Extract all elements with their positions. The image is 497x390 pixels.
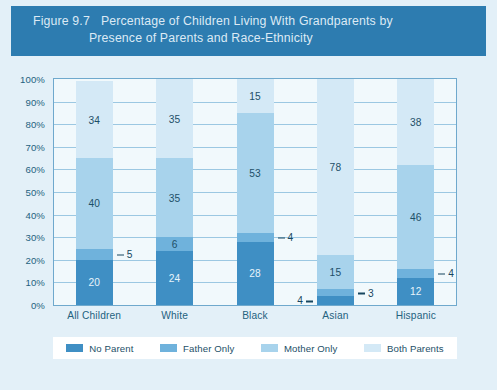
- x-axis-tick-label: Black: [242, 310, 268, 321]
- y-axis-tick-label: 40%: [25, 209, 45, 220]
- callout-leader-line: [438, 273, 445, 275]
- bar-stack: 204034: [76, 79, 113, 305]
- y-axis-tick-label: 0%: [31, 300, 45, 311]
- bar-segment[interactable]: [156, 251, 193, 305]
- bar-group[interactable]: 4285315: [237, 79, 274, 305]
- x-axis-tick-label: All Children: [67, 310, 121, 321]
- callout-value: 4: [448, 268, 454, 279]
- bar-segment-callout-label: 3: [355, 287, 374, 298]
- legend-item[interactable]: Father Only: [160, 343, 234, 354]
- bar-segment[interactable]: [397, 79, 434, 165]
- bar-group[interactable]: 4124638: [397, 79, 434, 305]
- bar-segment[interactable]: [317, 79, 354, 255]
- bar-segment[interactable]: [397, 269, 434, 278]
- bar-group[interactable]: 5204034: [76, 79, 113, 305]
- bar-stack: 285315: [237, 79, 274, 305]
- legend-swatch: [160, 344, 177, 352]
- legend-label: Both Parents: [387, 343, 444, 354]
- legend-swatch: [261, 344, 278, 352]
- callout-leader-line: [117, 254, 124, 256]
- figure-title-text-1: Percentage of Children Living With Grand…: [101, 14, 393, 28]
- legend-item[interactable]: No Parent: [66, 343, 133, 354]
- callout-value: 4: [297, 295, 303, 306]
- callout-leader-line: [306, 300, 313, 302]
- legend-swatch: [66, 344, 83, 352]
- bar-segment[interactable]: [237, 79, 274, 113]
- bar-stack: 1578: [317, 79, 354, 305]
- bar-group[interactable]: 2463535: [156, 79, 193, 305]
- bar-segment[interactable]: [156, 79, 193, 158]
- bar-segment[interactable]: [317, 296, 354, 305]
- x-axis-tick-label: Asian: [322, 310, 348, 321]
- y-axis-tick-label: 50%: [25, 187, 45, 198]
- figure-title-line-1: Figure 9.7Percentage of Children Living …: [33, 13, 476, 30]
- figure-number: Figure 9.7: [33, 14, 90, 28]
- bar-segment[interactable]: [317, 255, 354, 289]
- bar-segment-callout-label: 5: [114, 249, 133, 260]
- bar-segment-callout-label: 4: [435, 268, 454, 279]
- bar-segment[interactable]: [317, 289, 354, 296]
- chart-legend: No ParentFather OnlyMother OnlyBoth Pare…: [53, 337, 457, 359]
- figure-container: Figure 9.7Percentage of Children Living …: [0, 0, 497, 390]
- bar-segment[interactable]: [397, 278, 434, 305]
- bar-segment[interactable]: [156, 158, 193, 237]
- y-axis-tick-label: 80%: [25, 119, 45, 130]
- y-axis: 100%90%80%70%60%50%40%30%20%10%0%: [11, 78, 49, 306]
- y-axis-tick-label: 70%: [25, 141, 45, 152]
- bar-group[interactable]: 431578: [317, 79, 354, 305]
- legend-item[interactable]: Mother Only: [261, 343, 337, 354]
- legend-label: Mother Only: [284, 343, 337, 354]
- bar-segment-callout-label: 4: [275, 232, 294, 243]
- bars-layer: 5204034246353542853154315784124638: [54, 79, 456, 305]
- callout-value: 4: [288, 232, 294, 243]
- chart-card: 100%90%80%70%60%50%40%30%20%10%0% 520403…: [11, 59, 486, 384]
- bar-segment[interactable]: [156, 237, 193, 251]
- bar-segment[interactable]: [237, 242, 274, 305]
- figure-title-block: Figure 9.7Percentage of Children Living …: [33, 13, 476, 47]
- y-axis-tick-label: 60%: [25, 164, 45, 175]
- legend-swatch: [364, 344, 381, 352]
- bar-segment[interactable]: [76, 158, 113, 248]
- bar-segment[interactable]: [76, 249, 113, 260]
- bar-segment-callout-label: 4: [297, 295, 316, 306]
- x-axis-tick-label: White: [161, 310, 188, 321]
- bar-segment[interactable]: [237, 113, 274, 233]
- bar-segment[interactable]: [76, 81, 113, 158]
- x-axis-tick-label: Hispanic: [396, 310, 436, 321]
- callout-value: 3: [368, 287, 374, 298]
- bar-segment[interactable]: [76, 260, 113, 305]
- legend-label: Father Only: [183, 343, 234, 354]
- legend-item[interactable]: Both Parents: [364, 343, 444, 354]
- y-axis-tick-label: 90%: [25, 96, 45, 107]
- y-axis-tick-label: 20%: [25, 254, 45, 265]
- y-axis-tick-label: 30%: [25, 232, 45, 243]
- bar-stack: 124638: [397, 79, 434, 305]
- bar-segment[interactable]: [237, 233, 274, 242]
- bar-stack: 2463535: [156, 79, 193, 305]
- callout-leader-line: [358, 293, 365, 295]
- legend-label: No Parent: [89, 343, 133, 354]
- y-axis-tick-label: 10%: [25, 277, 45, 288]
- figure-header-band: Figure 9.7Percentage of Children Living …: [11, 6, 486, 56]
- callout-leader-line: [278, 237, 285, 239]
- bar-segment[interactable]: [397, 165, 434, 269]
- y-axis-tick-label: 100%: [20, 74, 45, 85]
- figure-title-line-2: Presence of Parents and Race-Ethnicity: [33, 30, 476, 47]
- x-axis: All ChildrenWhiteBlackAsianHispanic: [54, 310, 456, 328]
- callout-value: 5: [127, 249, 133, 260]
